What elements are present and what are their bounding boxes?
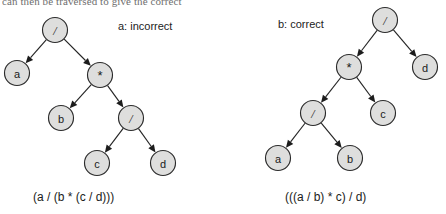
tree-edge-arrowhead	[286, 140, 293, 148]
tree-node: /	[119, 106, 144, 131]
tree-edge-arrowhead	[321, 95, 328, 103]
expression-tree-figure: can then be traversed to give the correc…	[0, 0, 446, 214]
tree-node: a	[5, 61, 30, 86]
tree-a-label: a: incorrect	[118, 20, 172, 32]
tree-b-caption: (((a / b) * c) / d)	[285, 190, 366, 204]
tree-edge	[108, 86, 119, 102]
tree-node: *	[88, 63, 113, 88]
tree-node-label: b	[58, 113, 64, 125]
tree-edge	[139, 129, 152, 147]
tree-node: *	[337, 55, 362, 80]
tree-node-label: d	[160, 158, 166, 170]
tree-edge	[361, 30, 377, 50]
tree-edge-arrowhead	[116, 99, 123, 107]
tree-node-label: c	[94, 158, 100, 170]
tree-node: a	[266, 146, 291, 171]
tree-edge	[64, 39, 85, 60]
tree-a-caption: (a / (b * (c / d)))	[33, 190, 114, 204]
tree-edge	[291, 123, 305, 142]
tree-node-label: *	[346, 60, 351, 75]
tree-edge-arrowhead	[357, 49, 364, 57]
tree-node: /	[373, 8, 398, 33]
tree-node-label: d	[422, 62, 428, 74]
tree-a-edges	[26, 39, 156, 152]
tree-node: /	[301, 101, 326, 126]
tree-a-nodes: /a*b/cd	[5, 18, 176, 176]
tree-node: b	[338, 146, 363, 171]
tree-edge-arrowhead	[368, 94, 375, 102]
tree-node-label: a	[14, 68, 21, 80]
tree-node: d	[151, 151, 176, 176]
tree-edge	[109, 128, 123, 146]
tree-b-label: b: correct	[278, 18, 324, 30]
tree-b-nodes: /*d/cab	[266, 8, 438, 171]
tree-node: d	[413, 55, 438, 80]
tree-edge	[326, 77, 341, 97]
tree-node: c	[85, 151, 110, 176]
tree-diagram-canvas: /a*b/cd/*d/cab	[0, 0, 446, 214]
tree-node-label: *	[97, 68, 102, 83]
tree-edge	[75, 85, 92, 103]
tree-node-label: a	[275, 153, 282, 165]
tree-edge-arrowhead	[148, 144, 155, 152]
tree-edge	[357, 77, 371, 96]
tree-edge	[321, 123, 337, 142]
tree-node: /	[43, 18, 68, 43]
tree-node: c	[371, 101, 396, 126]
tree-node-label: c	[380, 108, 386, 120]
tree-node-label: b	[347, 153, 353, 165]
tree-edge-arrowhead	[105, 145, 112, 153]
tree-b-edges	[286, 30, 417, 148]
tree-node: b	[49, 106, 74, 131]
tree-edge	[31, 40, 47, 58]
tree-edge	[393, 30, 411, 51]
